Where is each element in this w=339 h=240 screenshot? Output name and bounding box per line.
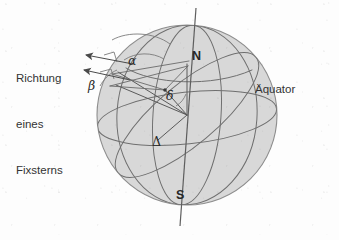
label-big-delta: Δ (152, 134, 161, 151)
caption-line-2: eines (16, 117, 63, 132)
label-delta: δ (166, 88, 174, 105)
caption-line-3: Fixsterns (16, 163, 63, 178)
star-direction-caption: Richtung eines Fixsterns (16, 40, 63, 194)
caption-line-1: Richtung (16, 71, 63, 86)
label-beta: β (88, 78, 95, 95)
label-equator: Äquator (255, 82, 295, 97)
label-north-pole: N (192, 48, 201, 65)
label-south-pole: S (176, 187, 184, 204)
label-alpha: α (128, 53, 136, 70)
